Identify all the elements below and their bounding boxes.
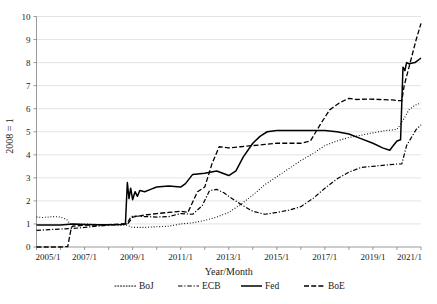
legend-label-boe: BoE <box>328 281 345 291</box>
y-tick-label: 8 <box>26 58 31 68</box>
y-tick-labels-group: 012345678910 <box>22 12 32 253</box>
x-axis-title-group: Year/Month <box>205 266 253 277</box>
legend-group: BoJECBFedBoE <box>115 281 345 291</box>
x-tick-labels-group: 2005/12007/12009/12011/12013/12015/12017… <box>36 252 423 262</box>
x-tick-label: 2011/1 <box>168 252 193 262</box>
chart-container: 012345678910 2005/12007/12009/12011/1201… <box>0 0 437 304</box>
y-tick-label: 10 <box>22 12 32 22</box>
y-tick-label: 9 <box>26 35 31 45</box>
y-tick-label: 2 <box>26 196 31 206</box>
x-tick-label: 2013/1 <box>216 252 241 262</box>
x-tick-label: 2007/1 <box>72 252 97 262</box>
y-tick-label: 4 <box>26 150 31 160</box>
x-tick-label: 2019/1 <box>360 252 385 262</box>
central-bank-balance-sheet-line-chart: 012345678910 2005/12007/12009/12011/1201… <box>0 0 437 304</box>
gridlines-group <box>37 17 422 224</box>
legend-label-fed: Fed <box>265 281 280 291</box>
y-tick-label: 6 <box>26 104 31 114</box>
series-line-fed <box>37 58 422 225</box>
legend-label-boj: BoJ <box>139 281 154 291</box>
axes-group <box>34 17 422 251</box>
y-axis-title-group: 2008 = 1 <box>4 118 15 154</box>
y-tick-label: 7 <box>26 81 31 91</box>
x-tick-label: 2009/1 <box>120 252 145 262</box>
x-tick-label: 2015/1 <box>264 252 289 262</box>
series-line-boj <box>37 103 422 227</box>
y-tick-label: 5 <box>26 127 31 137</box>
series-line-boe <box>37 23 422 247</box>
x-tick-label: 2017/1 <box>312 252 337 262</box>
y-axis-title: 2008 = 1 <box>4 118 15 154</box>
legend-label-ecb: ECB <box>202 281 220 291</box>
y-tick-label: 3 <box>26 173 31 183</box>
x-axis-title: Year/Month <box>205 266 253 277</box>
x-tick-label: 2005/1 <box>36 252 61 262</box>
data-series-group <box>37 23 422 247</box>
y-tick-label: 1 <box>26 219 31 229</box>
x-tick-label: 2021/1 <box>397 252 422 262</box>
y-tick-label: 0 <box>26 242 31 252</box>
